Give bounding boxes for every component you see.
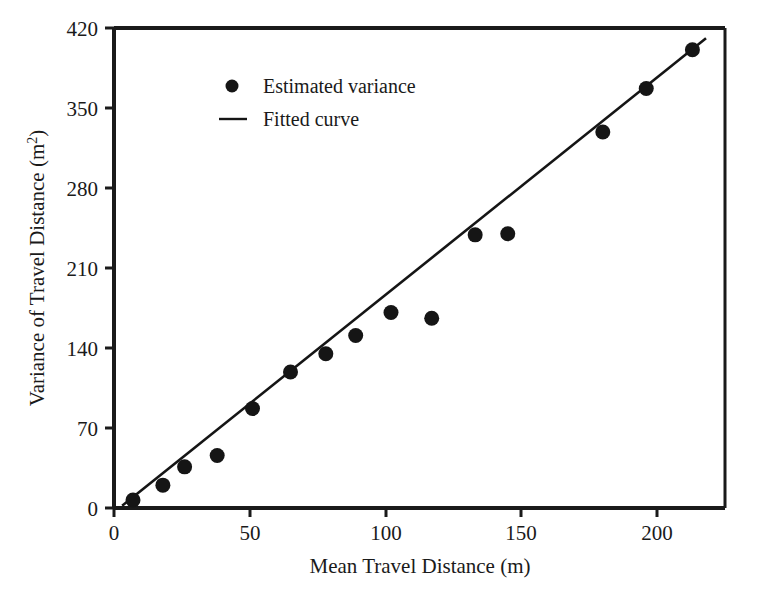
legend-marker-circle-icon bbox=[226, 80, 239, 93]
data-point bbox=[283, 365, 298, 380]
x-tick-label-50: 50 bbox=[240, 521, 261, 545]
y-tick-label-140: 140 bbox=[67, 337, 99, 361]
data-point bbox=[210, 448, 225, 463]
x-tick-label-150: 150 bbox=[505, 521, 537, 545]
data-point bbox=[348, 328, 363, 343]
legend-label-estimated-variance: Estimated variance bbox=[263, 75, 416, 97]
y-tick-label-350: 350 bbox=[67, 97, 99, 121]
data-point bbox=[126, 493, 141, 508]
x-tick-label-200: 200 bbox=[641, 521, 673, 545]
data-point bbox=[318, 346, 333, 361]
scatter-plot-svg: 0 70 140 210 280 350 420 0 50 100 150 20… bbox=[0, 0, 764, 594]
data-point bbox=[245, 401, 260, 416]
legend-label-fitted-curve: Fitted curve bbox=[263, 108, 359, 130]
data-point bbox=[468, 227, 483, 242]
data-point bbox=[685, 42, 700, 57]
y-axis-title-close: ) bbox=[25, 130, 49, 137]
y-tick-label-70: 70 bbox=[77, 417, 98, 441]
y-axis-title-group: Variance of Travel Distance (m2) bbox=[25, 130, 49, 406]
data-point bbox=[595, 125, 610, 140]
x-tick-label-100: 100 bbox=[370, 521, 402, 545]
y-tick-label-420: 420 bbox=[67, 17, 99, 41]
data-point bbox=[500, 226, 515, 241]
y-axis-title: Variance of Travel Distance (m2) bbox=[25, 130, 49, 406]
y-axis-title-superscript: 2 bbox=[25, 137, 40, 144]
x-axis-title: Mean Travel Distance (m) bbox=[309, 554, 530, 578]
y-tick-label-0: 0 bbox=[88, 497, 99, 521]
data-point bbox=[177, 459, 192, 474]
data-point bbox=[424, 311, 439, 326]
data-point bbox=[383, 305, 398, 320]
y-tick-label-280: 280 bbox=[67, 177, 99, 201]
x-tick-label-0: 0 bbox=[109, 521, 120, 545]
y-tick-label-210: 210 bbox=[67, 257, 99, 281]
chart-figure: 0 70 140 210 280 350 420 0 50 100 150 20… bbox=[0, 0, 764, 594]
y-axis-title-base: Variance of Travel Distance (m bbox=[25, 144, 49, 406]
data-point bbox=[155, 478, 170, 493]
data-point bbox=[639, 81, 654, 96]
